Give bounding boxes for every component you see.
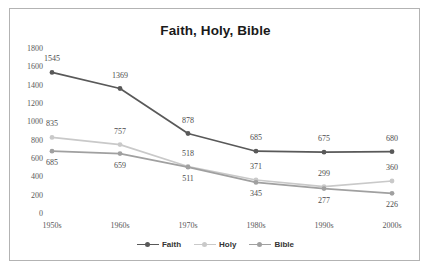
- data-point: [50, 149, 55, 154]
- y-axis-tick-label: 800: [10, 136, 43, 145]
- data-label: 685: [35, 158, 69, 167]
- data-label: 277: [307, 196, 341, 205]
- data-label: 1369: [103, 71, 137, 80]
- y-axis-tick-label: 400: [10, 172, 43, 181]
- data-point: [186, 165, 191, 170]
- data-label: 680: [375, 134, 409, 143]
- data-point: [322, 150, 327, 155]
- data-label: 371: [239, 162, 273, 171]
- legend-item-holy[interactable]: Holy: [194, 240, 236, 249]
- data-point: [254, 149, 259, 154]
- legend-marker-icon: [194, 241, 216, 249]
- data-point: [50, 70, 55, 75]
- legend-item-bible[interactable]: Bible: [249, 240, 294, 249]
- y-axis-tick-label: 1200: [10, 99, 43, 108]
- data-point: [118, 86, 123, 91]
- data-point: [390, 179, 395, 184]
- series-line: [52, 72, 392, 152]
- data-label: 675: [307, 134, 341, 143]
- chart-frame: Faith, Holy, Bible 180016001400120010008…: [9, 8, 420, 261]
- legend-label: Faith: [162, 240, 181, 249]
- x-axis-tick-label: 1950s: [32, 221, 72, 230]
- legend-label: Holy: [219, 240, 236, 249]
- data-label: 757: [103, 127, 137, 136]
- y-axis-tick-label: 1800: [10, 44, 43, 53]
- data-point: [322, 186, 327, 191]
- x-axis-tick-label: 1980s: [236, 221, 276, 230]
- series-bible: [50, 149, 395, 196]
- data-point: [118, 142, 123, 147]
- legend-marker-icon: [137, 241, 159, 249]
- y-axis-tick-label: 200: [10, 191, 43, 200]
- data-label: 685: [239, 133, 273, 142]
- legend-marker-icon: [249, 241, 271, 249]
- data-point: [390, 149, 395, 154]
- data-point: [186, 131, 191, 136]
- data-label: 226: [375, 200, 409, 209]
- legend-item-faith[interactable]: Faith: [137, 240, 181, 249]
- data-point: [50, 135, 55, 140]
- data-label: 659: [103, 161, 137, 170]
- y-axis-tick-label: 1400: [10, 81, 43, 90]
- data-label: 835: [35, 119, 69, 128]
- data-label: 345: [239, 189, 273, 198]
- x-axis-tick-label: 1990s: [304, 221, 344, 230]
- data-point: [118, 151, 123, 156]
- legend-label: Bible: [274, 240, 294, 249]
- data-point: [390, 191, 395, 196]
- data-label: 299: [307, 169, 341, 178]
- x-axis-tick-label: 2000s: [372, 221, 412, 230]
- data-label: 511: [171, 174, 205, 183]
- chart-legend: FaithHolyBible: [10, 240, 421, 249]
- x-axis-tick-label: 1970s: [168, 221, 208, 230]
- y-axis-tick-label: 1600: [10, 62, 43, 71]
- x-axis-tick-label: 1960s: [100, 221, 140, 230]
- y-axis-tick-label: 0: [10, 209, 43, 218]
- series-line: [52, 151, 392, 193]
- plot-area: 180016001400120010008006004002000 1950s1…: [10, 9, 421, 262]
- data-label: 360: [375, 163, 409, 172]
- data-point: [254, 180, 259, 185]
- data-label: 518: [171, 149, 205, 158]
- data-label: 1545: [35, 54, 69, 63]
- data-label: 878: [171, 116, 205, 125]
